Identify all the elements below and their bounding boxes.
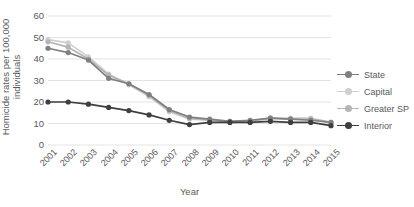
y-tick-label: 50 (22, 33, 44, 43)
y-axis-tick-labels: 0102030405060 (18, 16, 44, 145)
data-point (268, 119, 273, 124)
legend-swatch-icon (337, 70, 359, 80)
x-axis-tick-labels: 2001200220032004200520062007200820092010… (48, 147, 331, 187)
series-line (48, 40, 331, 123)
data-point (187, 122, 192, 127)
data-point (167, 107, 172, 112)
data-point (207, 120, 212, 125)
legend-item-greater-sp[interactable]: Greater SP (337, 100, 414, 117)
plot-svg (48, 16, 331, 145)
data-point (227, 120, 232, 125)
data-point (248, 120, 253, 125)
data-point (146, 112, 151, 117)
legend-item-interior[interactable]: Interior (337, 117, 414, 134)
data-point (308, 120, 313, 125)
line-chart: Homicide rates per 100,000 individuals 0… (0, 0, 414, 207)
data-point (106, 105, 111, 110)
legend-swatch-icon (337, 121, 359, 131)
plot-area (48, 16, 331, 145)
legend-label: Capital (364, 87, 392, 97)
legend-label: Interior (364, 121, 392, 131)
y-tick-label: 30 (22, 76, 44, 86)
y-tick-label: 40 (22, 54, 44, 64)
legend-label: State (364, 70, 385, 80)
legend-swatch-icon (337, 87, 359, 97)
data-point (187, 114, 192, 119)
data-point (126, 81, 131, 86)
series-line (48, 42, 331, 123)
x-axis-title: Year (48, 186, 331, 197)
data-point (288, 120, 293, 125)
data-point (66, 50, 71, 55)
data-point (146, 92, 151, 97)
data-point (86, 57, 91, 62)
data-point (45, 99, 50, 104)
series-capital (45, 37, 333, 125)
series-greater-sp (45, 39, 333, 125)
y-tick-label: 60 (22, 11, 44, 21)
data-point (126, 108, 131, 113)
legend-item-capital[interactable]: Capital (337, 83, 414, 100)
y-tick-label: 20 (22, 97, 44, 107)
data-point (167, 118, 172, 123)
legend-item-state[interactable]: State (337, 66, 414, 83)
legend-swatch-icon (337, 104, 359, 114)
y-tick-label: 10 (22, 119, 44, 129)
data-point (106, 76, 111, 81)
data-point (66, 99, 71, 104)
data-point (66, 45, 71, 50)
y-tick-label: 0 (22, 140, 44, 150)
legend: StateCapitalGreater SPInterior (337, 66, 414, 134)
data-point (86, 102, 91, 107)
legend-label: Greater SP (364, 104, 409, 114)
data-point (45, 46, 50, 51)
series-state (45, 46, 333, 125)
data-point (328, 123, 333, 128)
data-point (45, 39, 50, 44)
